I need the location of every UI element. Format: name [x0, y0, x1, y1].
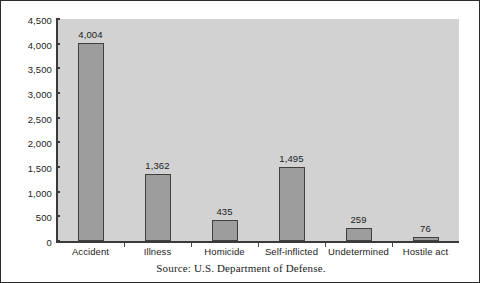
bar-value-label: 1,495: [279, 153, 303, 164]
x-axis-tick-mark: [191, 243, 192, 247]
y-axis-tick-label: 500: [36, 212, 56, 223]
bar-value-label: 4,004: [78, 29, 102, 40]
x-axis-category-label: Homicide: [204, 246, 244, 257]
bar-group[interactable]: 259: [325, 19, 392, 241]
y-axis-tick-label: 3,000: [28, 89, 56, 100]
bar[interactable]: [346, 228, 372, 241]
y-axis-tick-label: 1,500: [28, 163, 56, 174]
x-axis-tick-mark: [392, 243, 393, 247]
y-axis-tick-label: 0: [47, 237, 56, 248]
bar-group[interactable]: 4,004: [57, 19, 124, 241]
bar-group[interactable]: 1,362: [124, 19, 191, 241]
x-axis-category-label: Self-inflicted: [265, 246, 318, 257]
bar-value-label: 76: [420, 223, 431, 234]
y-axis-tick: 1,000: [28, 183, 56, 201]
y-axis-tick-label: 3,500: [28, 64, 56, 75]
bar-group[interactable]: 1,495: [258, 19, 325, 241]
bar-group[interactable]: 76: [392, 19, 459, 241]
y-axis-tick: 4,500: [28, 10, 56, 28]
bar[interactable]: [279, 167, 305, 241]
y-axis-line: [56, 19, 58, 242]
x-axis-category-label: Hostile act: [403, 246, 448, 257]
x-axis-category-label: Accident: [72, 246, 109, 257]
bar[interactable]: [212, 220, 238, 241]
y-axis-tick: 2,500: [28, 109, 56, 127]
y-axis-tick: 4,000: [28, 35, 56, 53]
bar-value-label: 1,362: [145, 160, 169, 171]
bar[interactable]: [78, 43, 104, 241]
y-axis-tick-label: 4,000: [28, 40, 56, 51]
bar[interactable]: [145, 174, 171, 241]
y-axis-tick: 3,500: [28, 59, 56, 77]
y-axis-tick-label: 4,500: [28, 15, 56, 26]
y-axis: 05001,0001,5002,0002,5003,0003,5004,0004…: [1, 1, 56, 283]
y-axis-tick: 3,000: [28, 84, 56, 102]
y-axis-tick-label: 2,500: [28, 114, 56, 125]
bar-value-label: 259: [350, 214, 366, 225]
x-axis-tick-mark: [124, 243, 125, 247]
y-axis-tick: 500: [36, 207, 56, 225]
bar-value-label: 435: [216, 206, 232, 217]
x-axis-tick-mark: [325, 243, 326, 247]
x-axis-tick-mark: [258, 243, 259, 247]
y-axis-tick: 1,500: [28, 158, 56, 176]
y-axis-tick: 2,000: [28, 133, 56, 151]
bar-group[interactable]: 435: [191, 19, 258, 241]
y-axis-tick: 0: [47, 232, 56, 250]
x-axis-category-label: Illness: [144, 246, 172, 257]
y-axis-tick-label: 2,000: [28, 138, 56, 149]
y-axis-tick-label: 1,000: [28, 188, 56, 199]
source-note: Source: U.S. Department of Defense.: [1, 262, 480, 274]
chart-figure: 4,0041,3624351,49525976 05001,0001,5002,…: [0, 0, 480, 283]
x-axis-category-label: Undetermined: [328, 246, 389, 257]
plot-area: 4,0041,3624351,49525976: [57, 19, 459, 241]
